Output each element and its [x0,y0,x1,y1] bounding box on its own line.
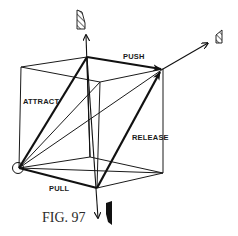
right-wall-icon [216,30,222,43]
force-cube-diagram: PUSH ATTRACT RELEASE PULL FIG. 97 [0,0,238,236]
pull-label: PULL [49,184,70,193]
bottom-wall-icon [106,201,112,225]
top-wall-icon [77,10,85,29]
cube-edge [21,57,87,67]
outer-arrows [86,35,208,218]
attract-label: ATTRACT [23,97,59,106]
attract-vector [19,57,87,168]
cube-edge [97,82,100,188]
figure-caption: FIG. 97 [42,210,86,225]
push-label: PUSH [123,52,145,61]
cube-edge [19,157,90,168]
resultant-arrow [163,43,208,69]
release-label: RELEASE [132,133,169,142]
cube-edge [97,173,163,188]
cube-edge [19,67,21,168]
